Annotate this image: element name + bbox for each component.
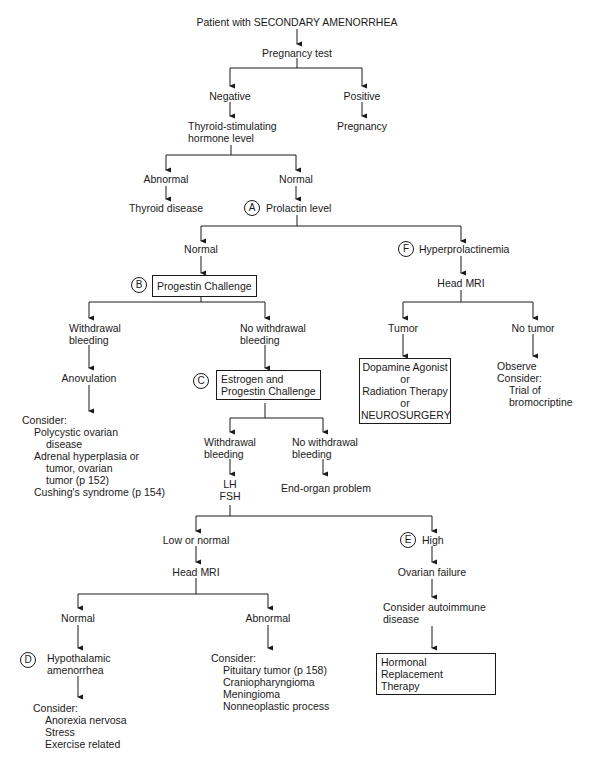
node-negative: Negative: [190, 90, 270, 102]
ep-challenge-line-1: Estrogen and: [221, 373, 316, 385]
withdrawal-line-1: Withdrawal: [69, 322, 121, 334]
marker-d: D: [20, 652, 36, 668]
node-mri-abnormal: Abnormal: [228, 612, 308, 624]
plan-bromocriptine: bromocriptine: [497, 396, 573, 408]
marker-c: C: [193, 373, 209, 389]
item-cushings: Cushing's syndrome (p 154): [22, 486, 165, 498]
no-withdrawal-line-2: bleeding: [240, 334, 306, 346]
node-tsh-normal: Normal: [256, 173, 336, 185]
node-mri-normal: Normal: [48, 612, 108, 624]
box-estrogen-progestin-challenge: Estrogen and Progestin Challenge: [216, 370, 321, 400]
ep-no-withdrawal-line-2: bleeding: [292, 448, 358, 460]
marker-f: F: [398, 241, 414, 257]
box-tumor-treatment: Dopamine Agonist or Radiation Therapy or…: [359, 358, 451, 424]
consider-heading: Consider:: [211, 652, 329, 664]
withdrawal-line-2: bleeding: [69, 334, 121, 346]
marker-b: B: [131, 277, 147, 293]
node-hyperprolactinemia: Hyperprolactinemia: [419, 243, 509, 255]
item-polycystic-cont: disease: [22, 438, 165, 450]
box-progestin-challenge: Progestin Challenge: [152, 275, 257, 297]
consider-heading: Consider:: [33, 702, 127, 714]
treatment-neurosurgery: NEUROSURGERY: [361, 409, 449, 421]
ep-withdrawal-line-2: bleeding: [204, 448, 256, 460]
treatment-or-1: or: [361, 373, 449, 385]
node-head-mri-bottom: Head MRI: [156, 566, 236, 578]
node-consider-autoimmune: Consider autoimmune disease: [383, 601, 486, 625]
ep-no-withdrawal-line-1: No withdrawal: [292, 436, 358, 448]
lh-label: LH: [210, 478, 250, 490]
node-ovarian-failure: Ovarian failure: [382, 566, 482, 578]
node-ep-no-withdrawal-bleeding: No withdrawal bleeding: [292, 436, 358, 460]
item-craniopharyngioma: Craniopharyngioma: [211, 676, 329, 688]
node-thyroid-disease: Thyroid disease: [116, 202, 216, 214]
marker-a: A: [244, 200, 260, 216]
item-stress: Stress: [33, 726, 127, 738]
plan-observe: Observe: [497, 360, 573, 372]
item-meningioma: Meningioma: [211, 688, 329, 700]
list-anovulation-consider: Consider: Polycystic ovarian disease Adr…: [22, 414, 165, 498]
item-exercise: Exercise related: [33, 738, 127, 750]
item-anorexia: Anorexia nervosa: [33, 714, 127, 726]
box-hormonal-replacement: Hormonal Replacement Therapy: [376, 653, 496, 695]
tsh-line-2: hormone level: [188, 132, 277, 144]
treatment-or-2: or: [361, 397, 449, 409]
item-adrenal: Adrenal hyperplasia or: [22, 450, 165, 462]
item-adrenal-cont-1: tumor, ovarian: [22, 462, 165, 474]
tsh-line-1: Thyroid-stimulating: [188, 120, 277, 132]
node-lh-fsh: LH FSH: [210, 478, 250, 502]
ep-withdrawal-line-1: Withdrawal: [204, 436, 256, 448]
node-no-tumor: No tumor: [493, 322, 573, 334]
hypothalamic-line-2: amenorrhea: [47, 664, 111, 676]
hrt-line-1: Hormonal Replacement: [381, 656, 491, 680]
node-tsh-abnormal: Abnormal: [126, 173, 206, 185]
plan-trial-of: Trial of: [497, 384, 573, 396]
marker-e: E: [400, 532, 416, 548]
node-head-mri-top: Head MRI: [421, 277, 501, 289]
treatment-radiation-therapy: Radiation Therapy: [361, 385, 449, 397]
node-low-or-normal: Low or normal: [146, 534, 246, 546]
node-pregnancy-test: Pregnancy test: [247, 47, 347, 59]
node-positive: Positive: [322, 90, 402, 102]
node-prolactin-normal: Normal: [161, 243, 241, 255]
hypothalamic-line-1: Hypothalamic: [47, 652, 111, 664]
node-no-tumor-plan: Observe Consider: Trial of bromocriptine: [497, 360, 573, 408]
node-high: High: [422, 534, 444, 546]
node-pregnancy: Pregnancy: [322, 120, 402, 132]
fsh-label: FSH: [210, 490, 250, 502]
plan-consider: Consider:: [497, 372, 573, 384]
item-polycystic: Polycystic ovarian: [22, 426, 165, 438]
node-end-organ-problem: End-organ problem: [281, 482, 371, 494]
autoimmune-line-1: Consider autoimmune: [383, 601, 486, 613]
item-pituitary-tumor: Pituitary tumor (p 158): [211, 664, 329, 676]
node-anovulation: Anovulation: [49, 372, 129, 384]
list-abnormal-consider: Consider: Pituitary tumor (p 158) Cranio…: [211, 652, 329, 712]
node-ep-withdrawal-bleeding: Withdrawal bleeding: [204, 436, 256, 460]
consider-heading: Consider:: [22, 414, 165, 426]
node-prolactin-level: Prolactin level: [266, 202, 331, 214]
node-hypothalamic-amenorrhea: Hypothalamic amenorrhea: [47, 652, 111, 676]
node-tsh-level: Thyroid-stimulating hormone level: [188, 120, 277, 144]
treatment-dopamine-agonist: Dopamine Agonist: [361, 361, 449, 373]
item-nonneoplastic: Nonneoplastic process: [211, 700, 329, 712]
ep-challenge-line-2: Progestin Challenge: [221, 385, 316, 397]
title-patient-secondary-amenorrhea: Patient with SECONDARY AMENORRHEA: [147, 16, 447, 28]
no-withdrawal-line-1: No withdrawal: [240, 322, 306, 334]
list-hypothalamic-consider: Consider: Anorexia nervosa Stress Exerci…: [33, 702, 127, 750]
node-tumor: Tumor: [373, 322, 433, 334]
autoimmune-line-2: disease: [383, 613, 486, 625]
item-adrenal-cont-2: tumor (p 152): [22, 474, 165, 486]
node-no-withdrawal-bleeding: No withdrawal bleeding: [240, 322, 306, 346]
hrt-line-2: Therapy: [381, 680, 491, 692]
node-withdrawal-bleeding: Withdrawal bleeding: [69, 322, 121, 346]
